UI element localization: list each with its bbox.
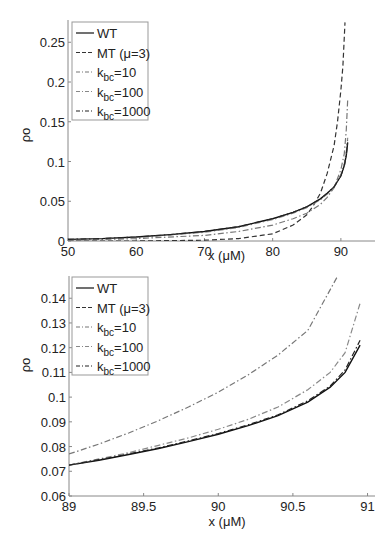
y-tick-label: 0.13	[41, 316, 66, 331]
x-tick-label: 90	[334, 244, 348, 259]
y-axis-label: ρo	[18, 128, 33, 143]
chart-1: 506070809000.050.10.150.20.25x (μM)ρoWTM…	[18, 20, 375, 263]
figure: 506070809000.050.10.150.20.25x (μM)ρoWTM…	[0, 0, 392, 548]
series-line	[68, 141, 348, 240]
legend: WTMT (μ=3)kbc=10kbc=100kbc=1000	[72, 22, 151, 122]
y-tick-label: 0.11	[42, 365, 66, 380]
y-tick-label: 0.2	[47, 75, 65, 90]
y-tick-label: 0.07	[41, 464, 66, 479]
y-axis-label: ρo	[18, 358, 33, 373]
y-tick-label: 0.06	[41, 489, 66, 504]
y-tick-label: 0	[58, 234, 65, 249]
x-axis-label: x (μM)	[208, 248, 245, 263]
series-line	[68, 142, 348, 239]
x-tick-label: 80	[265, 244, 279, 259]
series-line	[68, 138, 348, 240]
x-axis-label: x (μM)	[208, 514, 245, 529]
legend-label: MT (μ=3)	[97, 46, 150, 61]
legend-label: MT (μ=3)	[97, 301, 150, 316]
y-tick-label: 0.08	[41, 440, 66, 455]
y-tick-label: 0.09	[41, 415, 66, 430]
x-tick-label: 91	[360, 499, 374, 514]
y-tick-label: 0.05	[40, 194, 65, 209]
x-tick-label: 89.5	[131, 499, 156, 514]
y-tick-label: 0.25	[40, 35, 65, 50]
x-tick-label: 90	[211, 499, 225, 514]
legend-label: WT	[97, 26, 117, 41]
x-tick-label: 90.5	[280, 499, 305, 514]
x-tick-label: 60	[129, 244, 143, 259]
legend-label: WT	[97, 281, 117, 296]
y-tick-label: 0.1	[48, 390, 66, 405]
y-tick-label: 0.15	[40, 115, 65, 130]
legend: WTMT (μ=3)kbc=10kbc=100kbc=1000	[72, 277, 151, 377]
y-tick-label: 0.14	[41, 291, 66, 306]
y-tick-label: 0.1	[47, 155, 65, 170]
chart-2: 8989.59090.5910.060.070.080.090.10.110.1…	[18, 276, 375, 529]
y-tick-label: 0.12	[41, 341, 66, 356]
